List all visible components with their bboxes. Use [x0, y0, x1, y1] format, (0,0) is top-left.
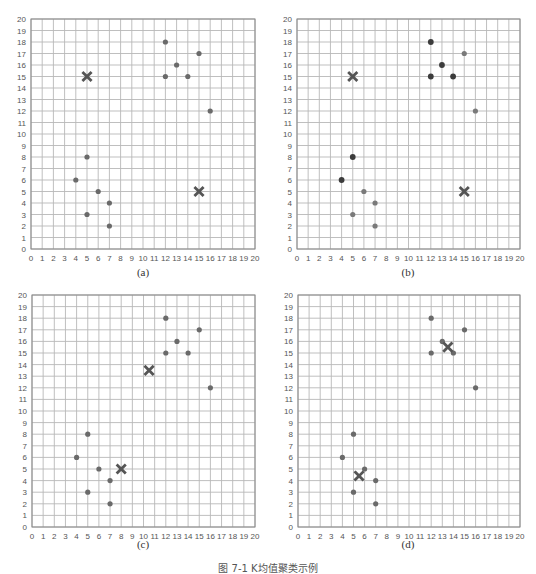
svg-text:20: 20 [516, 532, 525, 541]
svg-text:6: 6 [362, 532, 367, 541]
scatter-plot-d: 0123456789101112131415161718192001234567… [0, 0, 536, 574]
svg-text:5: 5 [289, 465, 294, 474]
svg-text:13: 13 [284, 372, 293, 381]
svg-text:0: 0 [289, 523, 294, 532]
svg-text:15: 15 [460, 532, 469, 541]
svg-text:3: 3 [289, 488, 294, 497]
data-point [351, 432, 356, 437]
svg-text:4: 4 [289, 477, 294, 486]
data-point [351, 490, 356, 495]
svg-text:6: 6 [289, 453, 294, 462]
svg-text:20: 20 [284, 291, 293, 300]
data-point [373, 501, 378, 506]
svg-text:10: 10 [284, 407, 293, 416]
data-point [429, 316, 434, 321]
svg-text:2: 2 [289, 500, 294, 509]
svg-text:4: 4 [340, 532, 345, 541]
svg-text:1: 1 [307, 532, 312, 541]
svg-text:19: 19 [284, 303, 293, 312]
svg-text:17: 17 [284, 326, 293, 335]
chart-panel-d: 0123456789101112131415161718192001234567… [0, 0, 536, 574]
svg-text:13: 13 [438, 532, 447, 541]
svg-text:0: 0 [296, 532, 301, 541]
svg-text:5: 5 [351, 532, 356, 541]
svg-text:1: 1 [289, 511, 294, 520]
svg-text:14: 14 [449, 532, 458, 541]
svg-text:17: 17 [482, 532, 491, 541]
svg-text:12: 12 [427, 532, 436, 541]
centroid-x-icon [355, 472, 362, 479]
svg-text:16: 16 [284, 337, 293, 346]
svg-text:3: 3 [329, 532, 334, 541]
svg-text:18: 18 [493, 532, 502, 541]
panel-label-d: (d) [388, 538, 428, 550]
svg-text:9: 9 [289, 419, 294, 428]
svg-text:15: 15 [284, 349, 293, 358]
data-point [373, 478, 378, 483]
data-point [462, 327, 467, 332]
figure-caption: 图 7-1 K均值聚类示例 [0, 560, 536, 574]
centroid-x-icon [444, 344, 451, 351]
data-point [340, 455, 345, 460]
svg-text:7: 7 [289, 442, 294, 451]
y-axis-tick-labels: 01234567891011121314151617181920 [284, 291, 293, 532]
svg-text:14: 14 [284, 361, 293, 370]
svg-text:18: 18 [284, 314, 293, 323]
svg-text:7: 7 [373, 532, 378, 541]
data-point [429, 350, 434, 355]
svg-text:11: 11 [285, 395, 294, 404]
data-point [473, 385, 478, 390]
series-centroids [355, 344, 451, 480]
grid [298, 295, 520, 527]
svg-text:12: 12 [284, 384, 293, 393]
svg-text:8: 8 [289, 430, 294, 439]
svg-text:19: 19 [504, 532, 513, 541]
svg-text:2: 2 [318, 532, 323, 541]
svg-text:16: 16 [471, 532, 480, 541]
